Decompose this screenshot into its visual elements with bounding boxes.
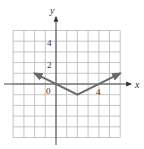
coordinate-graph: x y 0 4 2 4	[0, 0, 144, 149]
x-tick-label-4: 4	[96, 87, 101, 97]
y-tick-label-4: 4	[47, 38, 52, 48]
x-axis-label: x	[134, 79, 140, 90]
origin-label: 0	[46, 86, 51, 96]
y-axis-label: y	[49, 5, 55, 16]
y-tick-label-2: 2	[47, 60, 52, 70]
